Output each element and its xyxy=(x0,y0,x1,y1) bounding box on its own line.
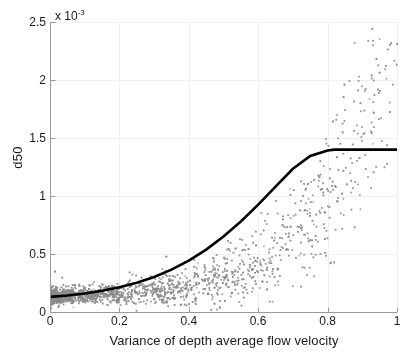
y-axis-exponent-prefix: x 10 xyxy=(55,9,78,23)
x-axis-label: Variance of depth average flow velocity xyxy=(50,333,398,348)
y-tick-label: 2 xyxy=(10,73,46,87)
y-tick-label: 0.5 xyxy=(10,247,46,261)
x-tick-label: 0.6 xyxy=(250,314,267,328)
y-axis-exponent: x 10-3 xyxy=(55,8,85,23)
x-tick-label: 0.2 xyxy=(111,314,128,328)
y-tick-label: 2.5 xyxy=(10,15,46,29)
y-tick-label: 0 xyxy=(10,305,46,319)
y-tick-label: 1 xyxy=(10,189,46,203)
x-tick-label: 0.8 xyxy=(319,314,336,328)
y-axis-exponent-power: -3 xyxy=(78,8,85,17)
x-tick-label: 0 xyxy=(47,314,54,328)
x-tick-label: 1 xyxy=(394,314,401,328)
scatter-plot-figure: x 10-3 00.511.522.5 d50 Variance of dept… xyxy=(0,0,414,355)
plot-canvas xyxy=(0,0,414,355)
x-tick-label: 0.4 xyxy=(180,314,197,328)
y-axis-label: d50 xyxy=(10,128,25,188)
